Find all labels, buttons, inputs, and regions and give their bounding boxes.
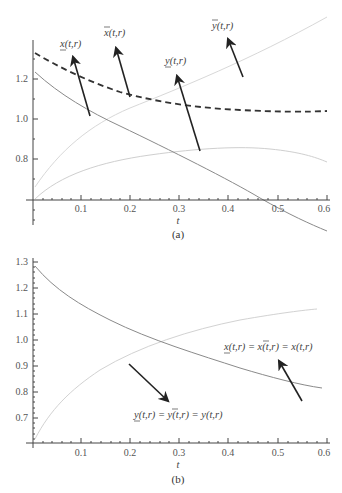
- x-tick-label: 0.5: [272, 203, 285, 214]
- x-axis-label: t: [177, 215, 181, 226]
- x-curve: [35, 266, 322, 388]
- panel-caption: (b): [172, 473, 185, 486]
- x-tick-label: 0.5: [272, 447, 285, 458]
- y-ticks: [33, 59, 38, 220]
- svg-text:y(t,r): y(t,r): [211, 20, 234, 32]
- x-tick-label: 0.6: [318, 203, 331, 214]
- x-tick-label: 0.4: [222, 447, 235, 458]
- y-tick-label: 1.0: [16, 113, 29, 124]
- panel-caption: (a): [172, 228, 185, 241]
- arrow-y-eq: [129, 364, 168, 401]
- label-x-eq: x(t,r) = x(t,r) = x(t,r): [223, 341, 313, 353]
- svg-text:x(t,r): x(t,r): [59, 38, 82, 50]
- y-tick-label: 1.1: [16, 308, 29, 319]
- label-x-upper: x(t,r): [103, 27, 126, 39]
- arrow-x-eq: [279, 361, 302, 401]
- y-ticks: [33, 262, 38, 439]
- panel-a: 0.8 1.0 1.2 0.1 0.2 0.3 0.4 0.5 0.6 t (a…: [16, 17, 331, 241]
- svg-text:x(t,r): x(t,r): [103, 27, 126, 39]
- y-tick-label: 1.2: [16, 73, 29, 84]
- x-tick-label: 0.3: [173, 203, 186, 214]
- x-ticks: [43, 195, 327, 200]
- arrow-y-lower: [177, 76, 200, 151]
- x-ticks: [43, 438, 327, 443]
- arrow-x-lower: [73, 57, 90, 116]
- label-y-lower: y(t,r): [164, 55, 187, 67]
- arrow-x-upper: [116, 48, 130, 97]
- label-y-upper: y(t,r): [211, 20, 234, 32]
- y-tick-label: 0.9: [16, 360, 29, 371]
- x-axis-label: t: [177, 459, 181, 470]
- y-tick-label: 0.8: [16, 386, 29, 397]
- y-tick-label: 1.3: [16, 256, 29, 267]
- svg-text:y(t,r) = y(t,r) = y(t,r): y(t,r) = y(t,r) = y(t,r): [133, 409, 223, 421]
- x-tick-label: 0.2: [124, 447, 137, 458]
- svg-text:y(t,r): y(t,r): [164, 55, 187, 67]
- panel-b: 0.7 0.8 0.9 1.0 1.1 1.2 1.3 0.1 0.2 0.3 …: [16, 256, 331, 486]
- y-tick-label: 0.7: [16, 412, 29, 423]
- figure: 0.8 1.0 1.2 0.1 0.2 0.3 0.4 0.5 0.6 t (a…: [0, 0, 342, 493]
- x-tick-label: 0.4: [222, 203, 235, 214]
- x-tick-label: 0.6: [318, 447, 331, 458]
- y-tick-label: 1.2: [16, 282, 29, 293]
- label-x-lower: x(t,r): [59, 38, 82, 50]
- y-tick-label: 0.8: [16, 153, 29, 164]
- x-tick-label: 0.3: [173, 447, 186, 458]
- y-tick-label: 1.0: [16, 334, 29, 345]
- arrow-y-upper: [228, 39, 243, 77]
- label-y-eq: y(t,r) = y(t,r) = y(t,r): [133, 409, 223, 421]
- svg-text:x(t,r) = x(t,r) = x(t,r): x(t,r) = x(t,r) = x(t,r): [223, 341, 313, 353]
- x-tick-label: 0.1: [75, 203, 88, 214]
- x-tick-label: 0.2: [124, 203, 137, 214]
- x-tick-label: 0.1: [75, 447, 88, 458]
